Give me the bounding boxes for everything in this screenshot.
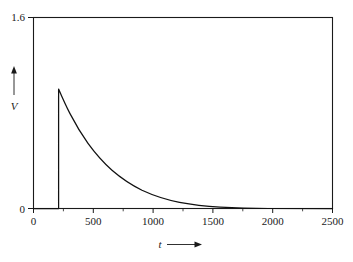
y-axis-label: V bbox=[11, 100, 19, 112]
y-tick-label-bottom: 0 bbox=[20, 203, 26, 215]
x-tick-label-0: 0 bbox=[31, 215, 37, 227]
y-axis-arrow bbox=[11, 66, 17, 95]
x-tick-label-1500: 1500 bbox=[202, 215, 225, 227]
voltage-curve bbox=[34, 89, 333, 209]
x-axis-arrow bbox=[167, 242, 202, 248]
x-tick-label-2000: 2000 bbox=[262, 215, 285, 227]
y-tick-label-top: 1.6 bbox=[11, 11, 25, 23]
voltage-decay-chart: 1.6 0 V 0 500 1000 1500 bbox=[0, 0, 353, 262]
x-tick-label-2500: 2500 bbox=[322, 215, 345, 227]
x-tick-label-500: 500 bbox=[85, 215, 102, 227]
plot-frame bbox=[34, 18, 333, 209]
x-tick-label-1000: 1000 bbox=[142, 215, 165, 227]
chart-page: 1.6 0 V 0 500 1000 1500 bbox=[0, 0, 353, 262]
x-axis-label: t bbox=[158, 238, 162, 250]
chart-svg: 1.6 0 V 0 500 1000 1500 bbox=[0, 0, 353, 262]
